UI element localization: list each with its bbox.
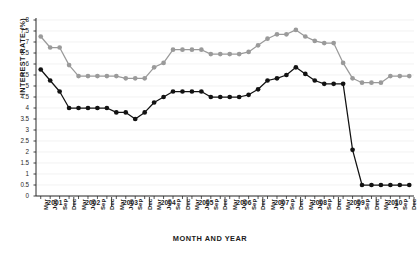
year-separators [74,197,414,207]
data-point [284,32,289,37]
data-point [341,81,346,86]
data-point [57,45,62,50]
data-point [265,36,270,41]
data-point [331,41,336,46]
data-point [190,89,195,94]
data-point [397,183,402,188]
data-point [350,147,355,152]
data-point [133,76,138,81]
data-point [227,52,232,57]
data-point [360,183,365,188]
data-point [246,50,251,55]
data-point [48,78,53,83]
data-point [76,74,81,79]
data-point [322,41,327,46]
data-point [48,45,53,50]
data-point [218,95,223,100]
data-point [152,65,157,70]
data-point [275,32,280,37]
data-point [105,74,110,79]
data-point [246,92,251,97]
data-point [294,28,299,33]
data-point [95,106,100,111]
data-point [199,47,204,52]
plot-area [0,0,420,253]
series-upper-series [38,28,411,85]
data-point [284,73,289,78]
data-point [360,80,365,85]
data-point [322,81,327,86]
data-point [265,78,270,83]
data-point [275,76,280,81]
data-point [57,89,62,94]
data-point [105,106,110,111]
series-lower-series [38,65,411,187]
data-point [152,100,157,105]
data-point [218,52,223,57]
data-point [256,43,261,48]
data-point [350,76,355,81]
data-point [123,76,128,81]
data-point [161,61,166,66]
series-line [41,67,410,185]
data-point [379,80,384,85]
data-point [294,65,299,70]
data-point [171,47,176,52]
data-point [303,72,308,77]
data-point [114,110,119,115]
data-point [180,89,185,94]
data-point [86,74,91,79]
data-point [331,81,336,86]
data-point [256,87,261,92]
data-point [379,183,384,188]
data-point [161,95,166,100]
data-point [67,63,72,68]
data-point [312,39,317,44]
data-point [142,76,147,81]
interest-rate-line-chart: INTEREST RATE (%) MONTH AND YEAR 00.511.… [0,0,420,253]
data-point [341,61,346,66]
data-point [180,47,185,52]
data-point [133,117,138,122]
data-point [123,110,128,115]
data-point [67,106,72,111]
data-point [312,78,317,83]
data-point [397,74,402,79]
data-point [190,47,195,52]
data-point [76,106,81,111]
data-point [38,34,43,39]
data-point [208,52,213,57]
data-point [227,95,232,100]
data-point [369,183,374,188]
data-point [303,34,308,39]
data-point [237,52,242,57]
data-point [407,74,412,79]
data-point [114,74,119,79]
data-point [86,106,91,111]
data-point [369,80,374,85]
data-point [208,95,213,100]
data-point [388,183,393,188]
data-point [171,89,176,94]
data-point [388,74,393,79]
data-point [199,89,204,94]
data-point [38,67,43,72]
data-point [95,74,100,79]
data-point [237,95,242,100]
data-point [407,183,412,188]
data-point [142,110,147,115]
